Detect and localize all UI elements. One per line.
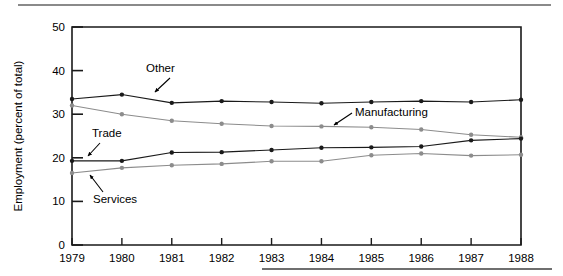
figure-container: Employment (percent of total) 0102030405…: [0, 0, 563, 276]
y-axis-title: Employment (percent of total): [12, 60, 24, 211]
plot-frame: [72, 27, 521, 245]
x-tick-label: 1982: [209, 252, 235, 264]
line-chart: Employment (percent of total) 0102030405…: [0, 0, 563, 276]
data-point-marker: [319, 146, 323, 150]
series-line: [72, 153, 521, 173]
x-tick-label: 1984: [309, 252, 335, 264]
data-point-marker: [419, 127, 423, 131]
data-point-marker: [319, 159, 323, 163]
data-point-marker: [519, 153, 523, 157]
x-tick-label: 1987: [458, 252, 484, 264]
x-tick-label: 1979: [59, 252, 85, 264]
annotation-arrow: [334, 113, 352, 125]
series-label-trade: Trade: [92, 127, 122, 139]
data-point-marker: [120, 92, 124, 96]
data-point-marker: [219, 162, 223, 166]
data-point-marker: [269, 124, 273, 128]
data-point-marker: [219, 122, 223, 126]
data-point-marker: [70, 171, 74, 175]
series-line: [72, 95, 521, 104]
data-point-marker: [170, 163, 174, 167]
series-label-services: Services: [93, 193, 137, 205]
y-tick-label: 0: [59, 239, 65, 251]
data-point-marker: [519, 136, 523, 140]
y-tick-label: 20: [52, 152, 65, 164]
data-point-marker: [170, 101, 174, 105]
series-label-other: Other: [146, 62, 175, 74]
annotation-arrow: [90, 175, 103, 192]
annotation-arrow: [155, 78, 170, 92]
series-line: [72, 139, 521, 161]
x-tick-label: 1983: [259, 252, 285, 264]
annotation-arrow: [88, 143, 100, 156]
data-point-marker: [319, 101, 323, 105]
data-point-marker: [269, 148, 273, 152]
data-point-marker: [120, 159, 124, 163]
data-point-marker: [219, 99, 223, 103]
data-point-marker: [369, 145, 373, 149]
top-divider-rule: [18, 4, 551, 6]
data-point-marker: [170, 119, 174, 123]
y-tick-label: 10: [52, 195, 65, 207]
x-tick-label: 1980: [109, 252, 135, 264]
data-point-marker: [419, 151, 423, 155]
data-point-marker: [319, 124, 323, 128]
data-point-marker: [469, 132, 473, 136]
data-point-marker: [469, 153, 473, 157]
x-axis-ticks: [72, 238, 521, 245]
series-label-manufacturing: Manufacturing: [355, 106, 428, 118]
x-tick-label: 1985: [359, 252, 385, 264]
data-point-marker: [419, 99, 423, 103]
data-point-marker: [519, 98, 523, 102]
data-point-marker: [369, 125, 373, 129]
data-point-marker: [170, 150, 174, 154]
x-tick-label: 1986: [408, 252, 434, 264]
x-axis-tick-labels: 1979198019811982198319841985198619871988: [59, 252, 534, 264]
series-markers: [70, 92, 523, 175]
data-point-marker: [219, 150, 223, 154]
y-axis-tick-labels: 01020304050: [52, 21, 65, 251]
y-tick-label: 40: [52, 65, 65, 77]
data-point-marker: [269, 100, 273, 104]
x-tick-label: 1988: [508, 252, 534, 264]
data-point-marker: [120, 112, 124, 116]
series-lines: [72, 95, 521, 173]
y-tick-label: 30: [52, 108, 65, 120]
bottom-divider-rule: [262, 268, 552, 270]
data-point-marker: [70, 97, 74, 101]
data-point-marker: [70, 159, 74, 163]
data-point-marker: [369, 100, 373, 104]
data-point-marker: [469, 138, 473, 142]
data-point-marker: [369, 153, 373, 157]
y-axis-ticks: [72, 27, 83, 245]
data-point-marker: [70, 103, 74, 107]
data-point-marker: [269, 159, 273, 163]
series-annotations: OtherManufacturingTradeServices: [88, 62, 428, 205]
x-tick-label: 1981: [159, 252, 185, 264]
data-point-marker: [419, 144, 423, 148]
series-line: [72, 105, 521, 137]
data-point-marker: [120, 166, 124, 170]
y-tick-label: 50: [52, 21, 65, 33]
data-point-marker: [469, 100, 473, 104]
